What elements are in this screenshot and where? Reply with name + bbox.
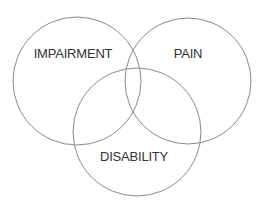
circle-disability xyxy=(73,68,201,196)
label-impairment: IMPAIRMENT xyxy=(34,46,113,61)
circle-impairment xyxy=(13,17,141,145)
circle-pain xyxy=(125,18,251,144)
label-disability: DISABILITY xyxy=(100,149,169,164)
label-pain: PAIN xyxy=(174,46,203,61)
venn-diagram: IMPAIRMENT PAIN DISABILITY xyxy=(0,0,262,208)
